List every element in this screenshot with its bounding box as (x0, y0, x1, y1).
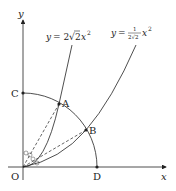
point-label-d: D (93, 171, 101, 182)
svg-text:2: 2 (148, 25, 152, 32)
angle-marker-icon (31, 157, 35, 161)
svg-text:x: x (81, 32, 86, 42)
x-axis-label: x (161, 171, 167, 182)
svg-text:2√2: 2√2 (128, 34, 139, 40)
steep-parabola-equation: y = 2 √ 2 x 2 (45, 29, 91, 42)
point-c (21, 91, 24, 94)
svg-text:= 2: = 2 (53, 32, 69, 42)
dashed-segment-oa (23, 104, 59, 167)
svg-text:1: 1 (133, 26, 137, 32)
svg-text:=: = (118, 28, 126, 38)
y-axis-label: y (17, 8, 24, 19)
svg-text:y: y (110, 28, 117, 38)
point-label-c: C (11, 88, 19, 99)
svg-text:2: 2 (87, 29, 91, 36)
dashed-segment-ob (23, 130, 86, 167)
angle-marker-icon (24, 151, 28, 155)
point-label-a: A (61, 98, 70, 109)
svg-text:y: y (45, 32, 52, 42)
shallow-parabola-equation: y = 1 2√2 x 2 (110, 25, 152, 40)
svg-text:2: 2 (75, 32, 81, 42)
origin-label: O (11, 171, 19, 182)
angle-marker-icon (28, 153, 32, 157)
svg-text:x: x (142, 28, 147, 38)
point-b (84, 128, 87, 131)
point-label-b: B (89, 125, 96, 136)
shallow-parabola-curve (23, 45, 136, 167)
point-a (57, 102, 60, 105)
geometry-diagram: A B C D O x y y = 2 √ 2 x 2 y = 1 2√2 x … (0, 0, 176, 191)
point-d (95, 165, 98, 168)
